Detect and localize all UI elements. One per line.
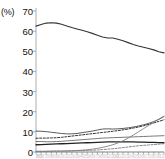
series-line-series-1-top	[36, 23, 164, 53]
series-line-series-4	[36, 136, 164, 142]
series-line-series-7-rising	[36, 116, 164, 151]
x-tick-label: 10	[159, 153, 165, 159]
series-line-series-3	[36, 120, 164, 139]
chart-root: (%) 010203040506070 19858687888990919293…	[0, 0, 165, 159]
plot-canvas	[0, 0, 165, 159]
series-line-series-5	[36, 142, 164, 145]
x-axis-tick-labels-cropped: 1985868788899091929394959697989920000102…	[36, 153, 165, 159]
